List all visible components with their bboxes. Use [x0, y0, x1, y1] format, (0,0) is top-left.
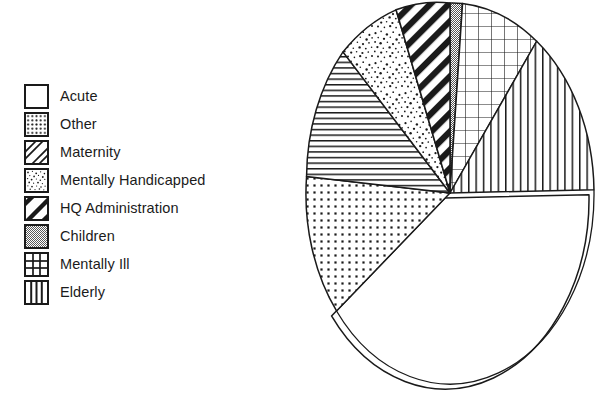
legend-swatch-acute	[24, 84, 49, 109]
chart-legend: Acute Other	[24, 84, 205, 305]
legend-label-elderly: Elderly	[60, 285, 105, 300]
legend-swatch-mentally-ill	[24, 252, 49, 277]
legend-swatch-other	[24, 112, 49, 137]
legend-item-mentally-ill: Mentally Ill	[24, 252, 205, 277]
legend-item-mentally-handicapped: Mentally Handicapped	[24, 168, 205, 193]
legend-swatch-maternity	[24, 140, 49, 165]
legend-label-mentally-handicapped: Mentally Handicapped	[60, 173, 205, 188]
legend-swatch-hq-administration	[24, 196, 49, 221]
legend-label-children: Children	[60, 229, 115, 244]
legend-label-hq-administration: HQ Administration	[60, 201, 179, 216]
legend-item-maternity: Maternity	[24, 140, 205, 165]
legend-label-other: Other	[60, 117, 97, 132]
pie-chart-svg	[283, 0, 611, 405]
legend-item-acute: Acute	[24, 84, 205, 109]
pie-chart	[283, 0, 611, 405]
legend-swatch-elderly	[24, 280, 49, 305]
legend-label-mentally-ill: Mentally Ill	[60, 257, 130, 272]
legend-item-other: Other	[24, 112, 205, 137]
legend-item-elderly: Elderly	[24, 280, 205, 305]
legend-swatch-mentally-handicapped	[24, 168, 49, 193]
legend-item-children: Children	[24, 224, 205, 249]
legend-item-hq-administration: HQ Administration	[24, 196, 205, 221]
pie-chart-figure: Acute Other	[0, 0, 611, 405]
legend-label-acute: Acute	[60, 89, 98, 104]
legend-label-maternity: Maternity	[60, 145, 121, 160]
legend-swatch-children	[24, 224, 49, 249]
